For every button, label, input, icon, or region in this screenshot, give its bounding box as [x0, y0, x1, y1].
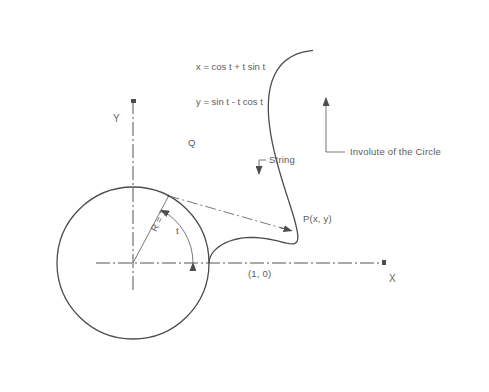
- y-axis-end-tick: [131, 99, 136, 103]
- point-q-label: Q: [188, 137, 196, 148]
- tangent-point-label: (1, 0): [248, 268, 271, 279]
- string-arrow-segment: [280, 228, 292, 231]
- angle-arc: [161, 210, 193, 263]
- x-axis-end-tick: [382, 260, 386, 265]
- involute-label: Involute of the Circle: [350, 146, 441, 157]
- angle-label: t: [176, 225, 179, 236]
- involute-diagram: x = cos t + t sin t y = sin t - t cos t …: [0, 0, 489, 392]
- parametric-equations: x = cos t + t sin t y = sin t - t cos t: [196, 38, 265, 130]
- equation-x: x = cos t + t sin t: [196, 61, 265, 73]
- point-q-marker: [168, 195, 170, 197]
- equation-y: y = sin t - t cos t: [196, 96, 265, 108]
- y-axis-label: Y: [113, 113, 120, 124]
- string-label: String: [269, 154, 295, 165]
- involute-leader: [326, 98, 345, 152]
- string-leader: [259, 160, 266, 174]
- x-axis-label: X: [389, 273, 396, 284]
- point-p-label: P(x, y): [303, 213, 332, 224]
- string-line: [169, 196, 291, 231]
